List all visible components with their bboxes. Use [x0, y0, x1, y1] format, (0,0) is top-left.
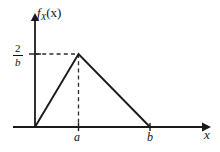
- peak-value-denominator: b: [13, 57, 23, 69]
- y-axis: [31, 13, 39, 127]
- x-axis-label: x: [204, 128, 210, 141]
- x-tick-label-b: b: [147, 131, 153, 143]
- plot-canvas: [0, 0, 220, 152]
- y-axis-peak-value: 2 b: [13, 43, 23, 68]
- y-axis-argument: (x): [46, 5, 61, 20]
- x-tick-label-a: a: [74, 131, 80, 143]
- y-axis-label: fX(x): [37, 6, 61, 22]
- peak-value-numerator: 2: [13, 43, 23, 55]
- density-curve: [35, 54, 150, 127]
- x-axis: [13, 123, 211, 132]
- triangular-density-figure: fX(x) 2 b a b x: [0, 0, 220, 152]
